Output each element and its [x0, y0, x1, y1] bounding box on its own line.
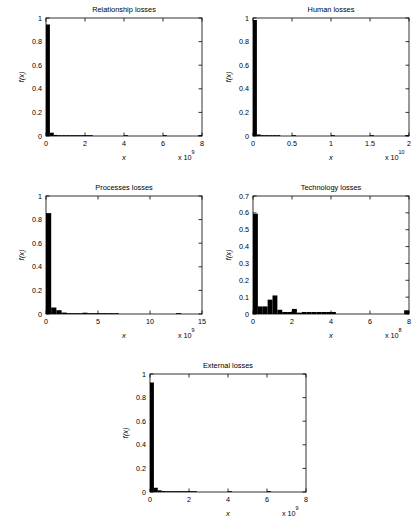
x-tick-label: 0 — [148, 495, 152, 504]
x-tick-label: 0 — [251, 317, 255, 326]
y-tick-label: 0.3 — [239, 259, 249, 268]
x-tick-label: 2 — [83, 139, 87, 148]
x-tick-label: 5 — [96, 317, 100, 326]
x-axis-label: x — [328, 153, 334, 162]
panel-title: Technology losses — [301, 183, 362, 192]
x-axis-label: x — [328, 331, 334, 340]
y-tick-label: 0.4 — [136, 440, 146, 449]
panel-technology: Technology losses0246800.10.20.30.40.50.… — [207, 178, 417, 350]
histogram-bar — [253, 20, 257, 136]
panel-title: Relationship losses — [92, 5, 156, 14]
x-axis-label: x — [225, 509, 231, 518]
histogram-bar — [150, 382, 154, 492]
x-axis-exponent: x 109 — [178, 149, 195, 162]
histogram-bar — [292, 309, 297, 314]
y-tick-label: 0.4 — [32, 262, 42, 271]
axes-frame — [46, 196, 202, 314]
y-tick-label: 0 — [38, 310, 42, 319]
y-axis-label: f(x) — [224, 249, 233, 260]
figure-histogram-grid: Relationship losses0246800.20.40.60.81xf… — [0, 0, 417, 527]
panel-human-svg: Human losses00.511.5200.20.40.60.81xf(x)… — [207, 0, 417, 172]
panel-processes-svg: Processes losses05101500.20.40.60.81xf(x… — [0, 178, 210, 350]
x-tick-label: 6 — [368, 317, 372, 326]
histogram-bar — [154, 488, 158, 492]
panel-relationship-svg: Relationship losses0246800.20.40.60.81xf… — [0, 0, 210, 172]
histogram-bars — [253, 214, 409, 314]
panel-relationship: Relationship losses0246800.20.40.60.81xf… — [0, 0, 210, 172]
y-axis-label: f(x) — [224, 71, 233, 82]
y-tick-label: 0.8 — [32, 215, 42, 224]
histogram-bar — [273, 295, 278, 314]
histogram-bar — [56, 310, 61, 314]
y-tick-label: 0.2 — [239, 108, 249, 117]
panel-title: External losses — [203, 361, 253, 370]
x-tick-label: 8 — [200, 139, 204, 148]
histogram-bar — [51, 308, 56, 314]
histogram-bars — [46, 24, 202, 136]
x-tick-label: 1.5 — [365, 139, 375, 148]
x-tick-label: 4 — [226, 495, 230, 504]
axes-frame — [46, 18, 202, 136]
y-tick-label: 0 — [142, 488, 146, 497]
y-tick-label: 0.4 — [239, 84, 249, 93]
y-tick-label: 0.6 — [239, 208, 249, 217]
panel-technology-svg: Technology losses0246800.10.20.30.40.50.… — [207, 178, 417, 350]
axes-frame — [150, 374, 306, 492]
x-tick-label: 0 — [44, 139, 48, 148]
y-tick-label: 0 — [245, 310, 249, 319]
panel-external: External losses0246800.20.40.60.81xf(x)x… — [104, 356, 314, 527]
y-tick-label: 0.7 — [239, 192, 249, 201]
x-axis-exponent: x 109 — [282, 505, 299, 518]
x-tick-label: 8 — [407, 317, 411, 326]
panel-title: Processes losses — [95, 183, 153, 192]
histogram-bars — [253, 20, 409, 136]
x-tick-label: 2 — [290, 317, 294, 326]
x-tick-label: 2 — [407, 139, 411, 148]
x-tick-label: 8 — [304, 495, 308, 504]
x-axis-label: x — [121, 153, 127, 162]
y-tick-label: 0.8 — [136, 393, 146, 402]
y-tick-label: 1 — [245, 14, 249, 23]
x-tick-label: 4 — [122, 139, 126, 148]
histogram-bars — [150, 382, 271, 492]
x-axis-label: x — [121, 331, 127, 340]
y-tick-label: 0.4 — [32, 84, 42, 93]
x-tick-label: 1 — [329, 139, 333, 148]
histogram-bar — [46, 213, 51, 314]
x-tick-label: 15 — [198, 317, 206, 326]
panel-human: Human losses00.511.5200.20.40.60.81xf(x)… — [207, 0, 417, 172]
y-tick-label: 0.6 — [136, 417, 146, 426]
histogram-bar — [263, 306, 268, 314]
panel-external-svg: External losses0246800.20.40.60.81xf(x)x… — [104, 356, 314, 527]
y-tick-label: 0.2 — [136, 464, 146, 473]
y-tick-label: 0.8 — [32, 37, 42, 46]
x-tick-label: 0 — [44, 317, 48, 326]
histogram-bar — [277, 310, 282, 314]
x-tick-label: 10 — [146, 317, 154, 326]
y-tick-label: 0.4 — [239, 242, 249, 251]
panel-processes: Processes losses05101500.20.40.60.81xf(x… — [0, 178, 210, 350]
y-tick-label: 0.5 — [239, 225, 249, 234]
y-tick-label: 0 — [245, 132, 249, 141]
x-tick-label: 2 — [187, 495, 191, 504]
y-tick-label: 1 — [38, 14, 42, 23]
axes-frame — [253, 18, 409, 136]
x-tick-label: 6 — [265, 495, 269, 504]
y-tick-label: 0.6 — [32, 239, 42, 248]
x-axis-exponent: x 109 — [178, 327, 195, 340]
y-tick-label: 1 — [142, 370, 146, 379]
y-tick-label: 1 — [38, 192, 42, 201]
y-tick-label: 0.2 — [32, 108, 42, 117]
x-tick-label: 0.5 — [287, 139, 297, 148]
x-tick-label: 0 — [251, 139, 255, 148]
y-tick-label: 0.8 — [239, 37, 249, 46]
histogram-bar — [50, 133, 54, 136]
histogram-bar — [258, 306, 263, 314]
histogram-bars — [46, 213, 181, 314]
y-tick-label: 0.2 — [32, 286, 42, 295]
histogram-bar — [253, 214, 258, 314]
x-axis-exponent: x 108 — [385, 327, 402, 340]
y-tick-label: 0.6 — [239, 61, 249, 70]
y-tick-label: 0.1 — [239, 293, 249, 302]
y-tick-label: 0.6 — [32, 61, 42, 70]
